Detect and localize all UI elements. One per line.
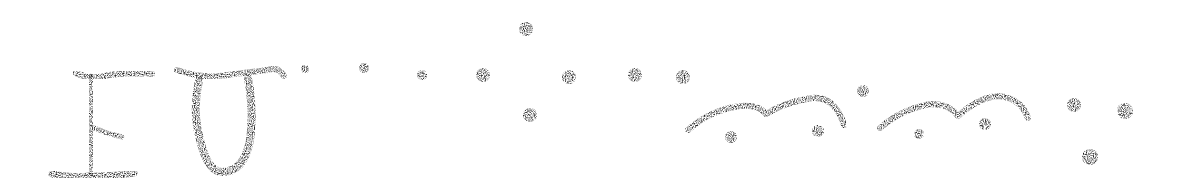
letter-e-glyph — [52, 73, 152, 177]
double-arch-glyph-1 — [688, 98, 844, 143]
double-arch-glyph-2 — [880, 96, 1028, 139]
glyph-canvas — [0, 0, 1183, 188]
therefore-dot-cluster — [1067, 98, 1133, 165]
dot-row — [301, 63, 690, 84]
dot-above-arch — [857, 85, 869, 97]
dot-cluster-middle — [519, 22, 537, 122]
letter-u-glyph — [177, 69, 284, 172]
